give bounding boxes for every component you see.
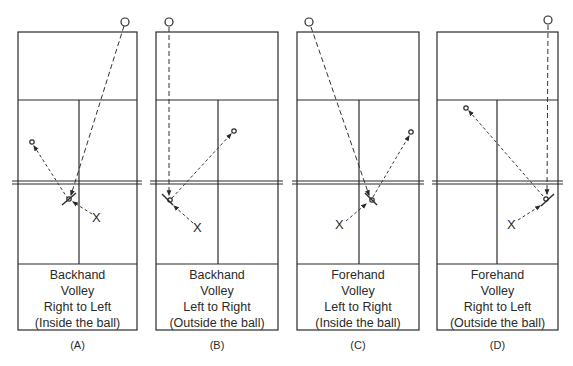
caption-line: Backhand — [156, 267, 278, 283]
caption-a: Backhand Volley Right to Left (Inside th… — [18, 267, 137, 331]
player-marker-b: X — [193, 221, 202, 234]
ball-origin-icon — [121, 18, 129, 26]
caption-line: Right to Left — [437, 299, 558, 315]
panel-label-c: (C) — [297, 339, 419, 351]
caption-line: Right to Left — [18, 299, 137, 315]
caption-line: Volley — [437, 283, 558, 299]
ball-origin-icon — [165, 18, 173, 26]
player-movement-path — [346, 204, 366, 221]
caption-line: Backhand — [18, 267, 137, 283]
ball-target-icon — [464, 106, 468, 110]
caption-d: Forehand Volley Right to Left (Outside t… — [437, 267, 558, 331]
caption-line: Forehand — [437, 267, 558, 283]
panel-label-d: (D) — [437, 339, 558, 351]
player-movement-path — [174, 206, 193, 223]
volley-return-path — [373, 136, 409, 197]
panel-label-b: (B) — [156, 339, 278, 351]
incoming-shot-path — [311, 27, 369, 195]
ball-target-icon — [232, 129, 236, 133]
caption-line: Volley — [18, 283, 137, 299]
caption-line: Volley — [156, 283, 278, 299]
caption-line: (Outside the ball) — [156, 315, 278, 331]
caption-line: Left to Right — [297, 299, 419, 315]
caption-c: Forehand Volley Left to Right (Inside th… — [297, 267, 419, 331]
volley-return-path — [172, 134, 231, 198]
volley-return-path — [469, 111, 543, 196]
caption-line: (Outside the ball) — [437, 315, 558, 331]
player-marker-a: X — [92, 211, 101, 224]
ball-target-icon — [409, 130, 413, 134]
player-movement-path — [73, 202, 92, 214]
panel-label-a: (A) — [18, 339, 137, 351]
caption-line: (Inside the ball) — [297, 315, 419, 331]
ball-target-icon — [30, 140, 34, 144]
caption-line: Forehand — [297, 267, 419, 283]
ball-origin-icon — [544, 16, 552, 24]
player-movement-path — [518, 206, 540, 220]
incoming-shot-path — [547, 25, 548, 194]
racket-icon — [365, 193, 377, 205]
caption-b: Backhand Volley Left to Right (Outside t… — [156, 267, 278, 331]
player-marker-c: X — [335, 218, 344, 231]
caption-line: (Inside the ball) — [18, 315, 137, 331]
racket-icon — [62, 193, 76, 205]
volley-return-path — [34, 146, 68, 199]
ball-origin-icon — [305, 18, 313, 26]
caption-line: Volley — [297, 283, 419, 299]
player-marker-d: X — [507, 218, 516, 231]
caption-line: Left to Right — [156, 299, 278, 315]
